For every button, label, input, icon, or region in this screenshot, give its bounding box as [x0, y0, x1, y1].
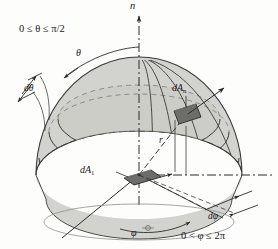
radius-label: r	[159, 136, 163, 146]
diagram-canvas	[0, 0, 278, 249]
d-phi-label: dφ	[208, 212, 218, 222]
dA-n-label: dAn	[172, 83, 187, 94]
dA-n-main: dA	[172, 82, 183, 93]
phi-label: φ	[131, 228, 137, 238]
dA-n-subscript: n	[183, 87, 186, 94]
dA-1-subscript: 1	[91, 169, 94, 176]
origin-marker	[138, 174, 141, 177]
dA-1-main: dA	[80, 164, 91, 175]
dA-1-patch	[124, 170, 172, 185]
hemisphere-solid-angle-figure: n 0 ≤ θ ≤ π/2 θ dθ dAn dA1 r φ dφ 0 < φ …	[0, 0, 278, 249]
d-theta-label: dθ	[24, 84, 33, 94]
d-theta-indicator	[18, 73, 49, 131]
dA-1-label: dA1	[80, 165, 95, 176]
theta-label: θ	[76, 48, 81, 58]
phi-range-label: 0 < φ ≤ 2π	[181, 231, 225, 242]
axis-n-label: n	[130, 1, 135, 12]
theta-range-label: 0 ≤ θ ≤ π/2	[19, 24, 65, 35]
